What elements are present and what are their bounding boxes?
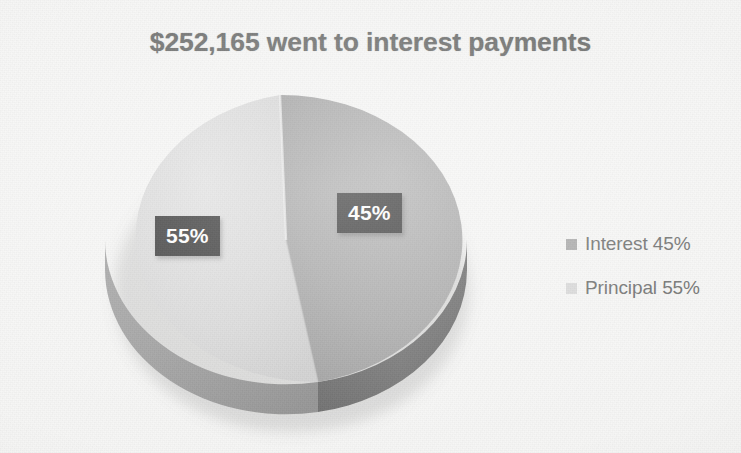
chart-title: $252,165 went to interest payments bbox=[0, 27, 741, 58]
legend-item-principal[interactable]: Principal 55% bbox=[566, 266, 700, 310]
slide-screenshot: $252,165 went to interest payments bbox=[0, 0, 741, 453]
data-label-principal: 55% bbox=[155, 216, 220, 256]
chart-legend: Interest 45% Principal 55% bbox=[566, 222, 700, 310]
legend-swatch-principal bbox=[566, 283, 577, 294]
legend-swatch-interest bbox=[566, 239, 577, 250]
data-label-interest: 45% bbox=[337, 193, 402, 233]
legend-label-principal: Principal 55% bbox=[585, 277, 700, 299]
legend-item-interest[interactable]: Interest 45% bbox=[566, 222, 700, 266]
legend-label-interest: Interest 45% bbox=[585, 233, 690, 255]
